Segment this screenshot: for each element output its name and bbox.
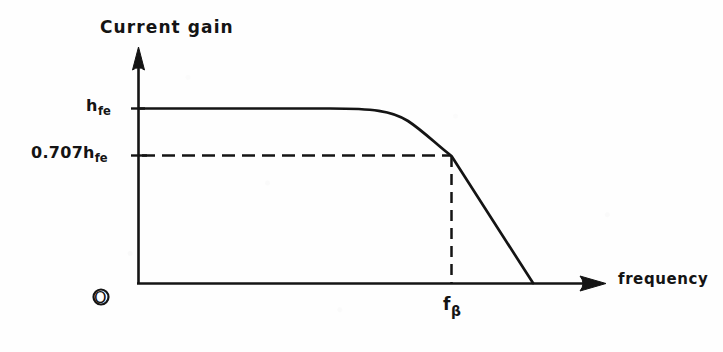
x-axis-title: frequency: [618, 270, 708, 288]
y-axis: [133, 47, 145, 283]
response-curve: [139, 109, 533, 284]
figure-page: Current gain frequency hfe 0.707hfe O fβ: [0, 0, 723, 352]
hfe-subscript: fe: [98, 104, 111, 118]
graph-canvas: [0, 0, 723, 352]
fbeta-subscript: β: [451, 303, 461, 319]
hfe-base: h: [86, 96, 98, 115]
gain-subscript: fe: [95, 151, 108, 165]
origin-label: O: [94, 288, 107, 307]
x-axis-arrowhead-icon: [580, 276, 606, 291]
y-tick-label-hfe: hfe: [86, 96, 111, 118]
current-gain-curve-path: [139, 109, 533, 284]
fbeta-base: f: [443, 294, 451, 314]
x-tick-label-fbeta: fβ: [443, 294, 461, 319]
gain-base: h: [83, 143, 95, 162]
y-tick-label-0707hfe: 0.707hfe: [31, 143, 108, 165]
x-axis: [137, 276, 606, 291]
y-axis-title: Current gain: [100, 17, 234, 37]
guide-lines: [142, 156, 452, 284]
y-axis-arrowhead-icon: [133, 47, 145, 70]
gain-coefficient: 0.707: [31, 143, 83, 162]
